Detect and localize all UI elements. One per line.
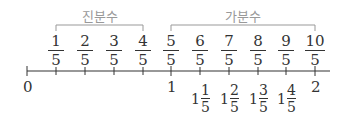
fraction-1-5: 15 [46,33,66,68]
mixed-number-1-1-5: 115 [191,83,210,114]
mixed-number-1-2-5: 125 [220,83,239,114]
improper-fraction-label: 가분수 [223,6,263,25]
fraction-2-5: 25 [75,33,95,68]
fraction-4-5: 45 [133,33,153,68]
fraction-5-5: 55 [161,33,181,68]
mixed-number-1-4-5: 145 [277,83,296,114]
axis-label-2: 2 [311,79,321,95]
fraction-6-5: 65 [190,33,210,68]
axis-label-0: 0 [23,79,33,95]
improper-fraction-bracket [171,25,315,31]
fraction-7-5: 75 [219,33,239,68]
fraction-9-5: 95 [276,33,296,68]
proper-fraction-bracket [56,25,143,31]
axis-label-1: 1 [167,79,177,95]
mixed-number-1-3-5: 135 [249,83,268,114]
fraction-3-5: 35 [104,33,124,68]
proper-fraction-label: 진분수 [80,6,120,25]
fraction-8-5: 85 [248,33,268,68]
number-line-diagram: 진분수 가분수 15 25 35 45 55 65 75 85 95 105 0… [0,0,343,117]
fraction-10-5: 105 [303,33,327,68]
